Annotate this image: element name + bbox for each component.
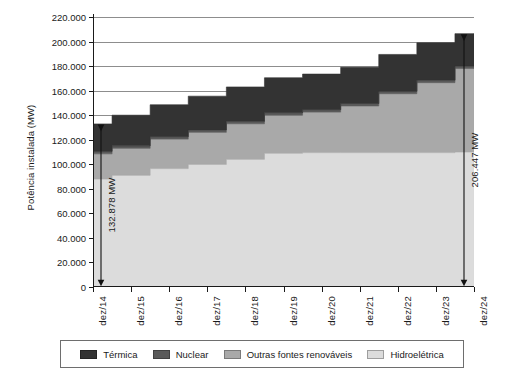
- x-tick-mark: [169, 287, 170, 292]
- x-tick-mark: [322, 287, 323, 292]
- x-tick-mark: [474, 287, 475, 292]
- legend-item[interactable]: Outras fontes renováveis: [224, 349, 353, 360]
- y-axis-line: [93, 14, 94, 287]
- x-tick-mark: [207, 287, 208, 292]
- x-tick-label: dez/15: [135, 296, 146, 326]
- legend-item[interactable]: Nuclear: [153, 349, 209, 360]
- y-tick-label: 20.000: [57, 257, 86, 268]
- legend-label: Nuclear: [176, 349, 209, 360]
- x-tick-label: dez/20: [326, 296, 337, 326]
- x-tick-mark: [131, 287, 132, 292]
- plot-area: 020.00040.00060.00080.000100.000120.0001…: [93, 17, 474, 287]
- x-tick-mark: [398, 287, 399, 292]
- legend-swatch: [153, 350, 170, 359]
- legend-item[interactable]: Hidroelétrica: [367, 349, 443, 360]
- x-tick-mark: [284, 287, 285, 292]
- y-tick-label: 60.000: [57, 208, 86, 219]
- x-tick-label: dez/19: [288, 296, 299, 326]
- x-tick-mark: [360, 287, 361, 292]
- y-tick-label: 200.000: [52, 36, 86, 47]
- legend-swatch: [80, 350, 97, 359]
- annotation-arrows: [93, 17, 474, 287]
- chart-legend: TérmicaNuclearOutras fontes renováveisHi…: [60, 340, 464, 368]
- y-tick-label: 100.000: [52, 159, 86, 170]
- x-tick-mark: [93, 287, 94, 292]
- y-tick-label: 180.000: [52, 61, 86, 72]
- y-tick-label: 220.000: [52, 12, 86, 23]
- legend-item[interactable]: Térmica: [80, 349, 137, 360]
- x-tick-mark: [245, 287, 246, 292]
- y-tick-label: 120.000: [52, 134, 86, 145]
- legend-label: Térmica: [103, 349, 137, 360]
- x-tick-label: dez/17: [211, 296, 222, 326]
- x-tick-label: dez/24: [478, 296, 489, 326]
- y-tick-label: 160.000: [52, 85, 86, 96]
- annotation-label: 206.447 MW: [469, 133, 480, 188]
- x-tick-label: dez/18: [249, 296, 260, 326]
- legend-swatch: [224, 350, 241, 359]
- y-axis-title: Potência instalada (MW): [25, 68, 36, 248]
- x-tick-label: dez/22: [402, 296, 413, 326]
- legend-label: Outras fontes renováveis: [247, 349, 353, 360]
- chart-root: Potência instalada (MW) 020.00040.00060.…: [0, 0, 524, 380]
- x-tick-label: dez/16: [173, 296, 184, 326]
- legend-label: Hidroelétrica: [390, 349, 443, 360]
- annotation-label: 132.878 MW: [106, 178, 117, 233]
- y-tick-label: 40.000: [57, 232, 86, 243]
- x-tick-label: dez/21: [364, 296, 375, 326]
- legend-swatch: [367, 350, 384, 359]
- x-tick-label: dez/23: [440, 296, 451, 326]
- x-axis-line: [93, 286, 474, 287]
- y-tick-label: 140.000: [52, 110, 86, 121]
- y-tick-label: 0: [81, 282, 86, 293]
- y-tick-label: 80.000: [57, 183, 86, 194]
- x-tick-mark: [436, 287, 437, 292]
- x-tick-label: dez/14: [97, 296, 108, 326]
